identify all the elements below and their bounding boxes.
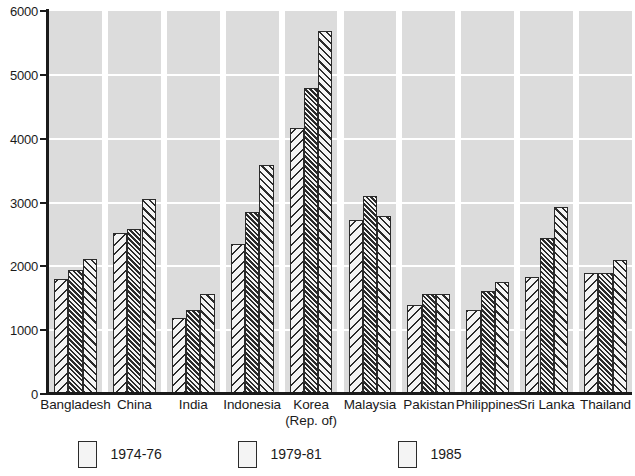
bar [598,273,612,394]
bar [584,273,598,394]
legend-item: 1974-76 [78,441,238,468]
y-axis-tick-mark [40,393,47,395]
category-name: Thailand [580,397,631,412]
x-axis-category-labels: BangladeshChinaIndiaIndonesiaKorea(Rep. … [0,396,635,436]
y-axis-tick-label: 5000 [10,68,38,81]
bar [231,244,245,394]
y-axis-tick-mark [40,74,47,76]
bar [466,310,480,394]
bar [68,270,82,394]
category-name: China [117,397,152,412]
bar-chart: 0100020003000400050006000 BangladeshChin… [0,0,635,476]
y-axis-tick-mark [40,265,47,267]
y-axis-tick-mark [40,202,47,204]
bar [172,318,186,394]
plot-area [49,11,632,394]
bar [436,294,450,394]
bar [318,31,332,394]
y-axis-tick-label: 3000 [10,196,38,209]
bar [113,233,127,394]
gridline [49,74,632,76]
legend-label: 1979-81 [271,447,322,461]
y-axis-tick-label: 6000 [10,5,38,18]
legend-label: 1985 [431,447,462,461]
bar [259,165,273,394]
chart-legend: 1974-761979-811985 [0,437,635,471]
bar [613,260,627,394]
bar [554,207,568,394]
y-axis-tick-label: 2000 [10,260,38,273]
y-axis-tick-mark [40,329,47,331]
bar [245,212,259,394]
legend-item: 1979-81 [238,441,398,468]
category-name: Korea [293,397,329,412]
y-axis-tick-labels: 0100020003000400050006000 [0,0,44,400]
y-axis-tick-label: 1000 [10,324,38,337]
category-name: India [179,397,208,412]
bar [142,199,156,394]
x-axis-line [46,392,632,395]
plot-wrapper: 0100020003000400050006000 BangladeshChin… [0,0,635,400]
bar [495,282,509,394]
y-axis-tick-mark [40,138,47,140]
legend-swatch [398,441,417,468]
bar [290,128,304,394]
y-axis-tick-label: 4000 [10,132,38,145]
bar [540,238,554,394]
bar [83,259,97,394]
bar [200,294,214,394]
bar [127,229,141,394]
x-axis-category-label: Thailand [565,396,635,413]
bar [349,220,363,394]
legend-swatch [238,441,257,468]
bar [304,88,318,394]
bar [422,294,436,394]
legend-item: 1985 [398,441,558,468]
bar [481,291,495,394]
legend-label: 1974-76 [111,447,162,461]
y-axis-tick-mark [40,10,47,12]
bar [186,310,200,394]
bar [407,305,421,394]
bar [377,216,391,394]
bar [54,279,68,394]
legend-swatch [78,441,97,468]
category-sublabel: (Rep. of) [271,413,352,429]
bar [363,196,377,394]
gridline [49,202,632,204]
gridline [49,138,632,140]
bar [525,277,539,394]
